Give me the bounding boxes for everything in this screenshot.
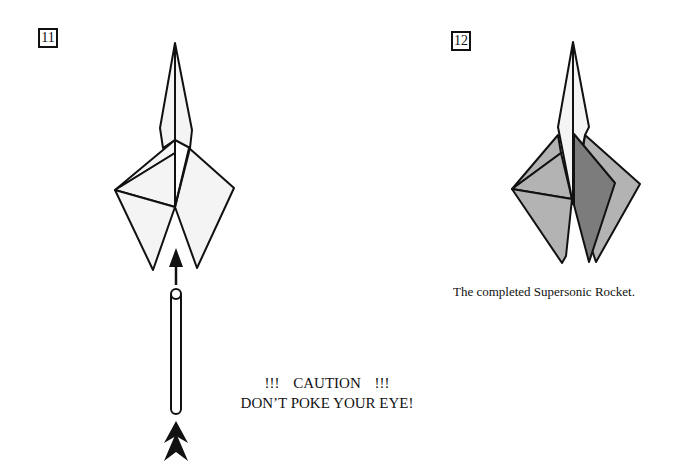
rocket-step-12 xyxy=(512,42,640,263)
caution-heading: !!! CAUTION !!! xyxy=(227,373,427,393)
caution-note: !!! CAUTION !!! DON’T POKE YOUR EYE! xyxy=(227,373,427,413)
caution-message: DON’T POKE YOUR EYE! xyxy=(227,393,427,413)
rocket-left-lower-wing xyxy=(512,189,572,263)
completed-caption: The completed Supersonic Rocket. xyxy=(453,284,635,300)
